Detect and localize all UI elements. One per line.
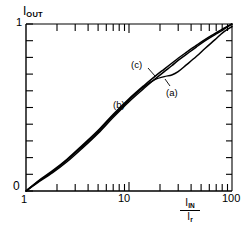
curve-label-a: (a) bbox=[166, 88, 178, 98]
x-tick-label-10: 10 bbox=[118, 193, 130, 204]
x-axis-label-numerator: IIN bbox=[170, 198, 210, 210]
annotation-leaders bbox=[148, 68, 170, 86]
curve-b bbox=[26, 24, 232, 191]
top-axis-ticks bbox=[57, 24, 228, 33]
axis-lines bbox=[26, 24, 232, 191]
figure-container: IOUT 1 0 1 10 100 IIN Ir (a) (b) (c) bbox=[0, 0, 251, 229]
x-tick-label-1: 1 bbox=[21, 194, 27, 205]
curve-label-c: (c) bbox=[131, 60, 142, 70]
curve-a bbox=[26, 27, 232, 192]
x-axis-numerator-subscript: IN bbox=[188, 202, 195, 209]
x-axis-label: IIN Ir bbox=[170, 198, 210, 223]
x-axis-ticks bbox=[57, 182, 228, 191]
y-axis-ticks bbox=[26, 24, 33, 191]
x-tick-label-100: 100 bbox=[222, 193, 240, 204]
leader-line-c bbox=[148, 68, 155, 76]
leader-line-a bbox=[165, 79, 170, 86]
curve-c bbox=[26, 24, 232, 191]
y-axis-label: IOUT bbox=[23, 5, 43, 19]
y-tick-label-bottom: 0 bbox=[13, 180, 20, 192]
y-axis-label-subscript: OUT bbox=[26, 10, 42, 19]
y-tick-label-top: 1 bbox=[16, 17, 22, 28]
curve-label-b: (b) bbox=[113, 100, 125, 110]
x-axis-denominator-subscript: r bbox=[190, 216, 193, 223]
x-axis-label-denominator: Ir bbox=[170, 211, 210, 223]
data-curves bbox=[26, 24, 232, 191]
right-axis-ticks bbox=[226, 41, 232, 175]
